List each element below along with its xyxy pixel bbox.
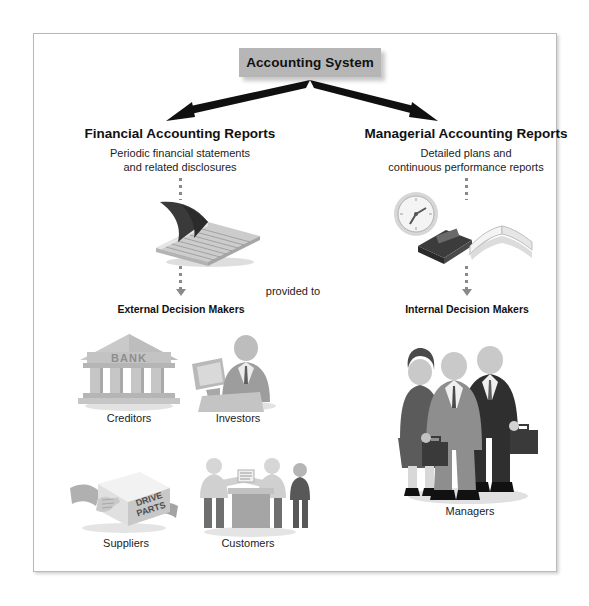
customers-at-counter-icon bbox=[188, 458, 312, 538]
audience-label-external: External Decision Makers bbox=[66, 303, 296, 315]
split-arrows bbox=[140, 76, 460, 126]
accounting-system-title-box: Accounting System bbox=[239, 48, 381, 77]
three-business-people-icon bbox=[392, 338, 544, 506]
svg-text:BANK: BANK bbox=[111, 352, 147, 364]
bank-building-icon: BANK bbox=[74, 330, 184, 412]
user-label-managers: Managers bbox=[410, 505, 530, 517]
user-label-creditors: Creditors bbox=[69, 412, 189, 424]
connector-managerial-arrowhead bbox=[462, 289, 472, 296]
clock-and-books-icon bbox=[388, 188, 536, 270]
page-title: Accounting System bbox=[246, 55, 374, 70]
businessman-with-monitor-icon bbox=[186, 332, 286, 412]
user-label-suppliers: Suppliers bbox=[66, 537, 186, 549]
provided-to-label: provided to bbox=[238, 285, 348, 297]
branch-heading-financial: Financial Accounting Reports bbox=[55, 126, 305, 141]
connector-financial-arrowhead bbox=[176, 289, 186, 296]
branch-heading-managerial: Managerial Accounting Reports bbox=[341, 126, 589, 141]
branch-subtitle-managerial-line1: Detailed plans and bbox=[341, 146, 589, 161]
branch-subtitle-financial-line1: Periodic financial statements bbox=[55, 146, 305, 161]
branch-subtitle-financial-line2: and related disclosures bbox=[55, 160, 305, 175]
connector-financial-bottom bbox=[179, 266, 182, 290]
user-label-investors: Investors bbox=[178, 412, 298, 424]
branch-subtitle-managerial-line2: continuous performance reports bbox=[341, 160, 589, 175]
connector-managerial-bottom bbox=[465, 266, 468, 290]
diagram-page: Accounting System Financial Accounting R… bbox=[0, 0, 589, 606]
hands-holding-box-icon: DRIVE PARTS bbox=[68, 466, 180, 536]
ledger-book-icon bbox=[148, 196, 268, 268]
user-label-customers: Customers bbox=[188, 537, 308, 549]
audience-label-internal: Internal Decision Makers bbox=[352, 303, 582, 315]
